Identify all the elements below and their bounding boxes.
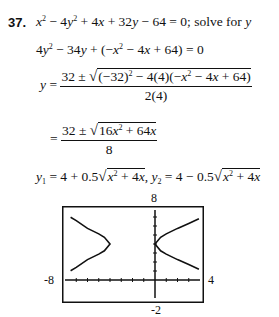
graph-xmax-label: 4 (208, 273, 214, 288)
solutions-line: y1 = 4 + 0.5√x2 + 4x, y2 = 4 − 0.5√x2 + … (36, 168, 260, 185)
graph-ymin-label: -2 (151, 303, 161, 317)
simplified-step: = 32 ± √16x2 + 64x 8 (50, 122, 157, 158)
quadratic-form-step: 4y2 − 34y + (−x2 − 4x + 64) = 0 (36, 42, 204, 58)
graph-ymax-label: 8 (151, 191, 157, 206)
hyperbola-graph (62, 206, 204, 303)
quadratic-formula-step: y = 32 ± √(−32)2 − 4(4)(−x2 − 4x + 64) 2… (40, 68, 252, 104)
problem-statement: x2 − 4y2 + 4x + 32y − 64 = 0; solve for … (36, 14, 251, 30)
problem-number: 37. (8, 15, 26, 30)
graph-xmin-label: -8 (44, 273, 54, 288)
